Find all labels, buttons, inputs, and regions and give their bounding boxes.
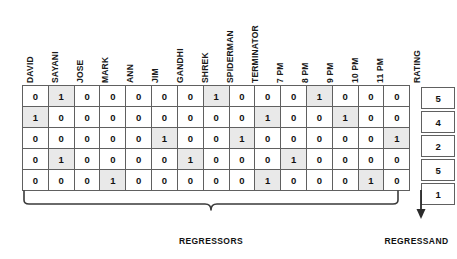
column-header-label: GANDHI: [175, 48, 185, 83]
matrix-cell: 0: [23, 149, 49, 170]
rating-row: 5: [421, 87, 455, 109]
matrix-cell: 1: [358, 170, 384, 191]
matrix-cell: 1: [384, 128, 410, 149]
regressors-brace-icon: [22, 190, 400, 216]
matrix-cell: 0: [48, 107, 74, 128]
rating-column: 54251: [419, 85, 457, 207]
column-header-11-pm: 11 PM: [372, 12, 397, 85]
matrix-cell: 0: [74, 107, 100, 128]
table-row: 100000000100100: [23, 107, 410, 128]
header-gap: [397, 12, 406, 85]
matrix-cell: 0: [255, 86, 281, 107]
matrix-cell: 1: [48, 149, 74, 170]
matrix-cell: 0: [332, 86, 358, 107]
matrix-cell: 0: [100, 107, 126, 128]
matrix-cell: 0: [332, 149, 358, 170]
matrix-cell: 0: [306, 128, 332, 149]
matrix-cell: 0: [281, 86, 307, 107]
column-header-label: TERMINATOR: [250, 25, 260, 83]
rating-cell: 4: [421, 111, 455, 133]
column-header-row: DAVIDSAYANIJOSEMARKANNJIMGANDHISHREKSPID…: [22, 12, 438, 85]
rating-row: 2: [421, 135, 455, 157]
matrix-cell: 1: [255, 170, 281, 191]
column-header-8-pm: 8 PM: [297, 12, 322, 85]
column-header-terminator: TERMINATOR: [247, 12, 272, 85]
rating-cell: 5: [421, 159, 455, 181]
column-header-gandhi: GANDHI: [172, 12, 197, 85]
matrix-cell: 0: [229, 86, 255, 107]
matrix-cell: 0: [74, 149, 100, 170]
matrix-cell: 1: [23, 107, 49, 128]
column-header-9-pm: 9 PM: [322, 12, 347, 85]
column-header-label: SAYANI: [50, 51, 60, 83]
column-header-label: SPIDERMAN: [225, 30, 235, 83]
matrix-cell: 1: [48, 86, 74, 107]
matrix-cell: 1: [255, 107, 281, 128]
column-header-10-pm: 10 PM: [347, 12, 372, 85]
rating-row: 5: [421, 159, 455, 181]
column-header-spiderman: SPIDERMAN: [222, 12, 247, 85]
column-header-label: JOSE: [75, 60, 85, 83]
matrix-cell: 0: [23, 86, 49, 107]
matrix-cell: 0: [358, 107, 384, 128]
matrix-cell: 0: [100, 149, 126, 170]
matrix-cell: 0: [126, 107, 152, 128]
matrix-cell: 0: [203, 128, 229, 149]
column-header-label: RATING: [412, 50, 422, 83]
regressand-label: REGRESSAND: [376, 236, 457, 246]
matrix-cell: 1: [281, 149, 307, 170]
matrix-cell: 0: [358, 86, 384, 107]
matrix-cell: 0: [229, 170, 255, 191]
column-header-shrek: SHREK: [197, 12, 222, 85]
column-header-label: 7 PM: [275, 62, 285, 83]
rating-cell: 5: [421, 87, 455, 109]
matrix-cell: 1: [203, 86, 229, 107]
matrix-cell: 0: [281, 107, 307, 128]
column-header-label: DAVID: [25, 56, 35, 83]
matrix-cell: 0: [177, 170, 203, 191]
figure-canvas: DAVIDSAYANIJOSEMARKANNJIMGANDHISHREKSPID…: [0, 0, 457, 259]
matrix-cell: 0: [281, 128, 307, 149]
matrix-cell: 0: [255, 149, 281, 170]
matrix-cell: 0: [384, 149, 410, 170]
matrix-cell: 0: [332, 128, 358, 149]
column-header-david: DAVID: [22, 12, 47, 85]
matrix-cell: 1: [152, 128, 178, 149]
matrix-cell: 0: [384, 107, 410, 128]
matrix-cell: 0: [100, 86, 126, 107]
rating-row: 4: [421, 111, 455, 133]
matrix-cell: 0: [306, 107, 332, 128]
matrix-cell: 0: [74, 170, 100, 191]
matrix-cell: 0: [203, 149, 229, 170]
matrix-cell: 1: [332, 107, 358, 128]
data-matrix: 0100000100010001000000001001000000010010…: [22, 85, 457, 207]
matrix-cell: 0: [100, 128, 126, 149]
table-row: 010000010001000: [23, 86, 410, 107]
matrix-cell: 0: [255, 128, 281, 149]
column-header-label: SHREK: [200, 52, 210, 83]
matrix-cell: 0: [23, 128, 49, 149]
column-header-label: JIM: [150, 68, 160, 83]
matrix-cell: 0: [177, 128, 203, 149]
matrix-cell: 1: [229, 128, 255, 149]
matrix-cell: 0: [229, 149, 255, 170]
regressor-matrix: 0100000100010001000000001001000000010010…: [22, 85, 410, 191]
regressors-label: REGRESSORS: [0, 236, 422, 246]
matrix-cell: 1: [306, 86, 332, 107]
column-header-label: 8 PM: [300, 62, 310, 83]
matrix-cell: 0: [358, 128, 384, 149]
matrix-cell: 0: [177, 107, 203, 128]
matrix-cell: 0: [74, 128, 100, 149]
column-header-label: 11 PM: [375, 58, 385, 83]
regressand-arrow-icon: [400, 190, 442, 220]
matrix-cell: 0: [203, 170, 229, 191]
matrix-cell: 0: [203, 107, 229, 128]
column-header-mark: MARK: [97, 12, 122, 85]
column-header-ann: ANN: [122, 12, 147, 85]
column-header-label: 10 PM: [350, 57, 360, 83]
matrix-cell: 0: [126, 149, 152, 170]
matrix-cell: 0: [23, 170, 49, 191]
column-header-label: 9 PM: [325, 62, 335, 83]
matrix-cell: 0: [332, 170, 358, 191]
matrix-cell: 0: [48, 128, 74, 149]
